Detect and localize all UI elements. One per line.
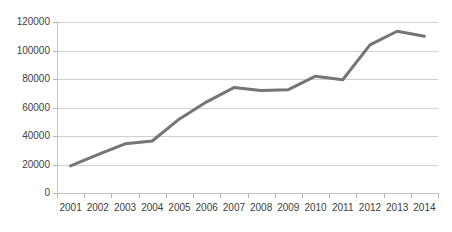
series-line [71,31,425,166]
series-layer [0,0,452,232]
line-chart: 020000400006000080000100000120000 200120… [0,0,452,232]
